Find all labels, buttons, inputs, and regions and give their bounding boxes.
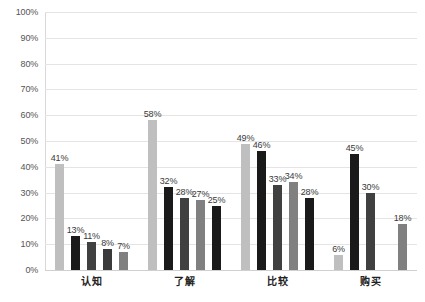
bar-groups: 41%13%11%8%7%58%32%28%27%25%49%46%33%34%… (45, 12, 417, 270)
bar-value-label: 25% (208, 195, 225, 205)
bar-slot: 49% (238, 12, 254, 270)
y-axis-tick-label: 20% (21, 213, 38, 223)
y-axis-tick-label: 60% (21, 110, 38, 120)
bar[interactable]: 27% (196, 200, 205, 270)
bar-value-label: 6% (332, 244, 345, 254)
bar-value-label: 41% (51, 153, 68, 163)
y-axis-tick-label: 70% (21, 84, 38, 94)
bar-group: 6%45%30%18% (324, 12, 417, 270)
plot-area: 41%13%11%8%7%58%32%28%27%25%49%46%33%34%… (45, 12, 417, 270)
bar[interactable]: 32% (164, 187, 173, 270)
bar-value-label: 28% (176, 187, 193, 197)
bar[interactable]: 13% (71, 236, 80, 270)
bar[interactable]: 41% (55, 164, 64, 270)
bar[interactable]: 28% (180, 198, 189, 270)
bar-slot: 58% (145, 12, 161, 270)
y-axis-tick-label: 30% (21, 188, 38, 198)
y-axis: 0%10%20%30%40%50%60%70%80%90%100% (0, 12, 42, 270)
bar[interactable]: 33% (273, 185, 282, 270)
bar-slot: 28% (302, 12, 318, 270)
y-axis-tick-label: 80% (21, 59, 38, 69)
bar-value-label: 11% (83, 231, 100, 241)
bar-value-label: 8% (101, 238, 114, 248)
bar[interactable]: 8% (103, 249, 112, 270)
bar-slot: 41% (52, 12, 68, 270)
y-axis-tick-label: 10% (21, 239, 38, 249)
y-axis-tick-label: 0% (25, 265, 38, 275)
bar-slot: 34% (286, 12, 302, 270)
bar-slot: 27% (193, 12, 209, 270)
bar-slot: 28% (177, 12, 193, 270)
bar[interactable]: 18% (398, 224, 407, 270)
bar-value-label: 45% (346, 143, 363, 153)
bar[interactable]: 46% (257, 151, 266, 270)
bar-slot: 46% (254, 12, 270, 270)
bar[interactable]: 34% (289, 182, 298, 270)
bar-slot: 18% (395, 12, 411, 270)
bar[interactable]: 25% (212, 206, 221, 271)
bar[interactable]: 6% (334, 255, 343, 270)
bar-slot: 8% (100, 12, 116, 270)
bar-slot: 6% (331, 12, 347, 270)
y-axis-tick-label: 100% (16, 7, 38, 17)
bar-slot: 7% (116, 12, 132, 270)
bar[interactable]: 58% (148, 120, 157, 270)
x-axis-category-label: 比较 (231, 272, 324, 296)
bar-value-label: 13% (67, 225, 84, 235)
bar-slot: 33% (270, 12, 286, 270)
y-axis-tick-label: 40% (21, 162, 38, 172)
y-axis-tick-label: 90% (21, 33, 38, 43)
bar-slot (379, 12, 395, 270)
bar-value-label: 34% (285, 171, 302, 181)
bar-slot: 30% (363, 12, 379, 270)
x-axis-category-label: 购买 (324, 272, 417, 296)
bar-value-label: 30% (362, 182, 379, 192)
bar-value-label: 49% (237, 133, 254, 143)
bar-chart: 0%10%20%30%40%50%60%70%80%90%100% 41%13%… (0, 0, 425, 302)
bar[interactable]: 28% (305, 198, 314, 270)
bar-slot: 25% (209, 12, 225, 270)
bar-slot: 45% (347, 12, 363, 270)
y-axis-tick-label: 50% (21, 136, 38, 146)
x-axis: 认知了解比较购买 (45, 272, 417, 296)
bar-value-label: 58% (144, 109, 161, 119)
bar-value-label: 32% (160, 176, 177, 186)
bar[interactable]: 49% (241, 144, 250, 270)
bar[interactable]: 30% (366, 193, 375, 270)
bar-value-label: 7% (117, 241, 130, 251)
bar-value-label: 18% (394, 213, 411, 223)
bar[interactable]: 11% (87, 242, 96, 270)
bar[interactable]: 45% (350, 154, 359, 270)
x-axis-category-label: 了解 (138, 272, 231, 296)
x-axis-category-label: 认知 (45, 272, 138, 296)
bar[interactable]: 7% (119, 252, 128, 270)
bar-value-label: 46% (253, 140, 270, 150)
bar-group: 49%46%33%34%28% (231, 12, 324, 270)
bar-group: 58%32%28%27%25% (138, 12, 231, 270)
bar-value-label: 33% (269, 174, 286, 184)
bar-slot: 32% (161, 12, 177, 270)
bar-slot: 11% (84, 12, 100, 270)
axis-baseline (45, 270, 417, 271)
bar-slot: 13% (68, 12, 84, 270)
bar-value-label: 27% (192, 189, 209, 199)
bar-group: 41%13%11%8%7% (45, 12, 138, 270)
bar-value-label: 28% (301, 187, 318, 197)
